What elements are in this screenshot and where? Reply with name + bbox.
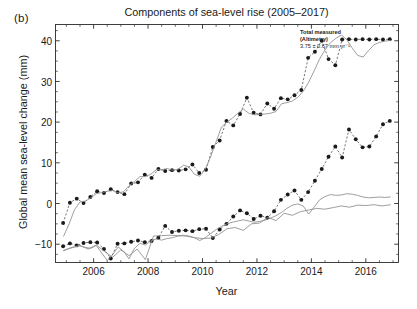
series-marker-0 — [150, 176, 154, 180]
x-tick-label: 2010 — [180, 266, 226, 277]
series-marker-2 — [116, 242, 120, 246]
x-tick-label: 2012 — [234, 266, 280, 277]
series-marker-2 — [347, 128, 351, 132]
series-marker-2 — [381, 122, 385, 126]
series-marker-0 — [231, 123, 235, 127]
series-marker-2 — [95, 241, 99, 245]
series-marker-2 — [68, 241, 72, 245]
series-marker-0 — [156, 167, 160, 171]
series-marker-2 — [313, 179, 317, 183]
series-marker-2 — [136, 239, 140, 243]
series-marker-0 — [245, 96, 249, 100]
series-marker-2 — [252, 217, 256, 221]
series-marker-0 — [272, 107, 276, 111]
series-marker-2 — [143, 240, 147, 244]
series-marker-2 — [306, 190, 310, 194]
series-marker-0 — [306, 56, 310, 60]
series-marker-2 — [122, 241, 126, 245]
x-tick-label: 2016 — [343, 266, 389, 277]
series-marker-2 — [170, 230, 174, 234]
series-marker-0 — [68, 201, 72, 205]
series-marker-0 — [75, 197, 79, 201]
series-marker-0 — [197, 171, 201, 175]
series-marker-2 — [361, 145, 365, 149]
series-marker-2 — [272, 209, 276, 213]
series-marker-2 — [279, 198, 283, 202]
series-marker-2 — [61, 244, 65, 248]
series-marker-2 — [163, 224, 167, 228]
series-marker-2 — [293, 189, 297, 193]
series-marker-2 — [299, 198, 303, 202]
x-tick-label: 2008 — [125, 266, 171, 277]
series-marker-0 — [333, 63, 337, 67]
series-marker-2 — [129, 240, 133, 244]
series-marker-2 — [354, 137, 358, 141]
series-marker-0 — [361, 37, 365, 41]
series-marker-0 — [265, 101, 269, 105]
figure-panel-b: (b) Components of sea-level rise (2005–2… — [0, 0, 417, 309]
series-marker-2 — [327, 155, 331, 159]
series-marker-0 — [327, 57, 331, 61]
series-marker-0 — [136, 180, 140, 184]
x-tick-label: 2014 — [288, 266, 334, 277]
series-marker-0 — [190, 163, 194, 167]
series-marker-0 — [354, 38, 358, 42]
series-marker-0 — [340, 38, 344, 42]
plot-area — [0, 0, 417, 309]
series-marker-2 — [190, 229, 194, 233]
series-marker-2 — [245, 211, 249, 215]
series-marker-2 — [197, 227, 201, 231]
series-marker-2 — [177, 229, 181, 233]
series-marker-0 — [374, 37, 378, 41]
series-marker-2 — [82, 241, 86, 245]
series-marker-2 — [184, 228, 188, 232]
series-marker-2 — [388, 119, 392, 123]
series-marker-2 — [340, 156, 344, 160]
series-marker-2 — [88, 240, 92, 244]
series-marker-2 — [238, 208, 242, 212]
series-marker-0 — [218, 139, 222, 143]
series-line-3 — [64, 194, 391, 261]
series-marker-2 — [320, 167, 324, 171]
x-tick-label: 2006 — [71, 266, 117, 277]
plot-frame — [56, 25, 399, 263]
series-line-4 — [64, 205, 391, 260]
series-marker-2 — [374, 134, 378, 138]
series-marker-0 — [95, 189, 99, 193]
series-marker-2 — [204, 227, 208, 231]
series-marker-0 — [286, 97, 290, 101]
series-dashed-line-0 — [63, 39, 390, 223]
series-marker-2 — [286, 193, 290, 197]
series-marker-0 — [293, 93, 297, 97]
series-marker-0 — [320, 39, 324, 43]
series-marker-2 — [367, 145, 371, 149]
series-marker-2 — [231, 215, 235, 219]
series-marker-0 — [279, 96, 283, 100]
series-marker-0 — [367, 38, 371, 42]
series-marker-2 — [333, 145, 337, 149]
series-marker-0 — [184, 167, 188, 171]
series-marker-0 — [313, 50, 317, 54]
series-marker-2 — [259, 214, 263, 218]
series-marker-0 — [61, 221, 65, 225]
series-marker-0 — [122, 192, 126, 196]
